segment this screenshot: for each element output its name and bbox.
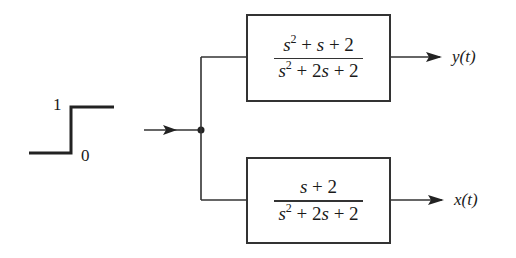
top-denominator: s2 + 2s + 2 [274,61,362,81]
step-low-label: 0 [81,147,90,164]
unit-step-signal [29,107,114,153]
bottom-denominator: s2 + 2s + 2 [274,204,362,224]
output-y-label: y(t) [452,48,476,65]
step-high-label: 1 [53,96,62,113]
bottom-transfer-function: s + 2 s2 + 2s + 2 [274,177,362,223]
bottom-transfer-function-block: s + 2 s2 + 2s + 2 [246,157,391,244]
top-transfer-function: s2 + s + 2 s2 + 2s + 2 [274,35,362,81]
top-transfer-function-block: s2 + s + 2 s2 + 2s + 2 [246,14,391,102]
output-x-label: x(t) [454,191,478,208]
top-numerator: s2 + s + 2 [279,35,358,55]
bottom-numerator: s + 2 [296,177,341,197]
